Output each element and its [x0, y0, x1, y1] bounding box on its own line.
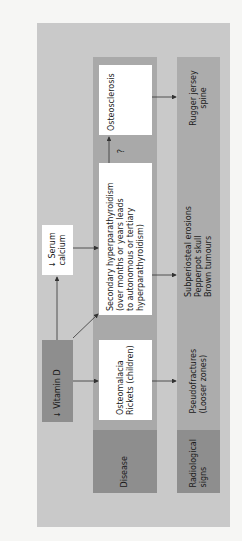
arrow-vitd-to-secondary: [73, 314, 98, 338]
uncertain-link-marker: ?: [117, 146, 127, 156]
arrows-layer: [0, 0, 242, 541]
